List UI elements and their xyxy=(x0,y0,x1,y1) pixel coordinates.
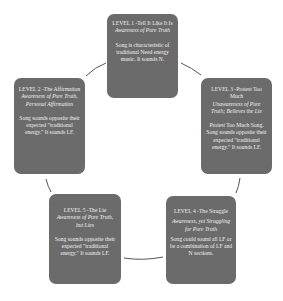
level-5-description: Song sounds opposite their expected "tra… xyxy=(53,236,117,258)
level-2-title: LEVEL 2 -The Affirmation xyxy=(18,86,81,93)
level-5-subtitle: Awareness of Pure Truth, but Lies xyxy=(53,214,117,229)
level-4-title: LEVEL 4 -The Struggle xyxy=(170,208,232,215)
connector-level4-to-level5 xyxy=(124,257,163,259)
level-2-subtitle: Awareness of Pure Truth, Personal Affirm… xyxy=(18,93,81,108)
level-4-box: LEVEL 4 -The Struggle Awareness, yet Str… xyxy=(166,196,236,284)
level-4-description: Song could sound all LF or be a combinat… xyxy=(170,236,232,258)
level-5-title: LEVEL 5 -The Lie xyxy=(53,207,117,214)
level-2-description: Song sounds opposite their expected "tra… xyxy=(18,115,81,137)
level-3-title: LEVEL 3 -Protest Too Much xyxy=(205,86,268,101)
level-5-box: LEVEL 5 -The Lie Awareness of Pure Truth… xyxy=(49,194,121,284)
connector-level1-to-level3 xyxy=(181,63,201,75)
connector-level5-to-level2 xyxy=(46,179,51,192)
level-1-subtitle: Awareness of Pure Truth xyxy=(111,27,174,34)
level-3-box: LEVEL 3 -Protest Too Much Unawareness of… xyxy=(201,78,272,174)
level-1-description: Song is characteristic of traditional Ne… xyxy=(111,42,174,64)
level-2-box: LEVEL 2 -The Affirmation Awareness of Pu… xyxy=(14,78,85,174)
level-1-title: LEVEL 1 -Tell It Like It Is xyxy=(111,20,174,27)
connector-level3-to-level4 xyxy=(236,178,240,193)
level-3-subtitle: Unawareness of Pure Truth; Believes the … xyxy=(205,101,268,116)
connector-level2-to-level1 xyxy=(86,63,106,76)
level-4-subtitle: Awareness, yet Struggling for Pure Truth xyxy=(170,218,232,233)
level-1-box: LEVEL 1 -Tell It Like It Is Awareness of… xyxy=(107,14,178,98)
level-3-description: Protest Too Much Song. Song sounds oppos… xyxy=(205,122,268,151)
